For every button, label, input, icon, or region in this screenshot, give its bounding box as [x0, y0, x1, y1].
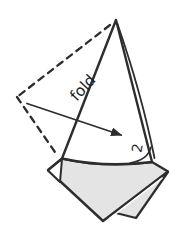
- origami-diagram: fold 2: [0, 0, 184, 228]
- origami-step-figure: fold 2: [0, 0, 184, 228]
- prefold-dashed-bottom: [17, 97, 57, 155]
- paper-corner-flap: [48, 159, 62, 182]
